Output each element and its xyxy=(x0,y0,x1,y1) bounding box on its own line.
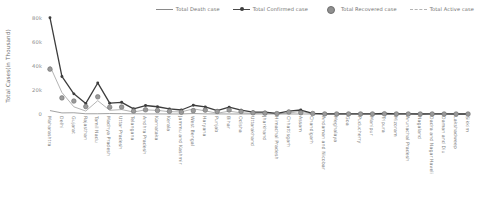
data-point-marker[interactable] xyxy=(143,108,148,113)
data-point-marker[interactable] xyxy=(239,109,244,114)
x-axis-tick-label: Mizoram xyxy=(393,116,398,137)
x-axis-tick-label: Dadra and Nagar Haveli xyxy=(429,116,434,174)
data-point-marker[interactable] xyxy=(60,96,65,101)
line-swatch-icon xyxy=(156,6,173,13)
x-axis-tick-label: Punjab xyxy=(214,116,219,132)
x-axis-tick-label: Goa xyxy=(345,116,350,126)
data-point-marker[interactable] xyxy=(107,105,112,110)
data-point-marker[interactable] xyxy=(263,111,268,116)
x-axis-tick-label: Uttar Pradesh xyxy=(118,116,123,149)
x-axis-tick-label: Sikkim xyxy=(465,116,470,132)
x-axis-tick-label: Tripura xyxy=(381,116,386,133)
y-axis-ticks: 020k40k60k80k xyxy=(18,0,42,203)
x-axis-tick-label: Telangana xyxy=(130,116,135,141)
data-point-marker[interactable] xyxy=(84,104,89,109)
x-axis-tick-label: Nagaland xyxy=(417,116,422,139)
x-axis-tick-label: Daman and Diu xyxy=(441,116,446,154)
data-point-marker[interactable] xyxy=(215,109,220,114)
x-axis-tick-label: Maharashtra xyxy=(47,116,52,147)
data-point-marker[interactable] xyxy=(155,108,160,113)
x-axis-tick-label: Karnataka xyxy=(154,116,159,141)
x-axis-tick-label: Odisha xyxy=(238,116,243,133)
x-axis-tick-label: Chhattisgarh xyxy=(286,116,291,147)
chart-legend: Total Death case Total Confirmed case To… xyxy=(0,2,482,16)
x-axis-tick-label: Bihar xyxy=(226,116,231,129)
data-point-marker[interactable] xyxy=(60,75,63,78)
data-point-marker[interactable] xyxy=(72,99,77,104)
x-axis-tick-label: Jharkhand xyxy=(262,116,267,140)
covid-cases-line-chart: Total Death case Total Confirmed case To… xyxy=(0,0,482,203)
circle-swatch-icon xyxy=(321,6,338,13)
data-point-marker[interactable] xyxy=(95,95,100,100)
data-point-marker[interactable] xyxy=(203,108,208,113)
legend-label: Total Active case xyxy=(430,6,474,12)
x-axis-tick-label: Chandigarh xyxy=(309,116,314,144)
data-point-marker[interactable] xyxy=(227,108,232,113)
x-axis-tick-label: West Bengal xyxy=(190,116,195,146)
legend-item-total-death-case[interactable]: Total Death case xyxy=(156,6,220,13)
x-axis-tick-label: Andaman and Nicobar xyxy=(321,116,326,170)
y-axis-tick-label: 20k xyxy=(20,87,42,93)
x-axis-tick-label: Assam xyxy=(298,116,303,132)
plot-area xyxy=(44,18,474,114)
data-point-marker[interactable] xyxy=(131,109,136,114)
data-point-marker[interactable] xyxy=(144,104,147,107)
data-point-marker[interactable] xyxy=(72,92,75,95)
x-axis-tick-label: Uttarakhand xyxy=(250,116,255,146)
x-axis-tick-label: Delhi xyxy=(59,116,64,128)
dashed-line-swatch-icon xyxy=(410,6,427,13)
x-axis-tick-label: Puducherry xyxy=(357,116,362,143)
legend-label: Total Confirmed case xyxy=(253,6,308,12)
data-point-marker[interactable] xyxy=(49,16,52,19)
x-axis-tick-label: Jammu and Kashmir xyxy=(178,116,183,165)
x-axis-labels: MaharashtraDelhiGujaratRajasthanTamil Na… xyxy=(44,116,474,202)
legend-label: Total Death case xyxy=(176,6,220,12)
x-axis-tick-label: Himachal Pradesh xyxy=(274,116,279,160)
data-point-marker[interactable] xyxy=(299,110,304,115)
legend-label: Total Recovered case xyxy=(341,6,397,12)
series-line xyxy=(50,18,468,114)
x-axis-tick-label: Meghalaya xyxy=(333,116,338,142)
data-point-marker[interactable] xyxy=(120,101,123,104)
x-axis-tick-label: Lakshadweep xyxy=(453,116,458,149)
x-axis-tick-label: Kerala xyxy=(166,116,171,131)
y-axis-tick-label: 80k xyxy=(20,15,42,21)
x-axis-tick-label: Andhra Pradesh xyxy=(142,116,147,154)
data-point-marker[interactable] xyxy=(156,105,159,108)
data-point-marker[interactable] xyxy=(192,104,195,107)
data-point-marker[interactable] xyxy=(191,108,196,113)
data-point-marker[interactable] xyxy=(167,109,172,114)
data-point-marker[interactable] xyxy=(96,82,99,85)
x-axis-tick-label: Rajasthan xyxy=(83,116,88,140)
y-axis-title-text: Total Cases(in Thousand) xyxy=(5,18,11,114)
y-axis-tick-label: 60k xyxy=(20,39,42,45)
y-axis-tick-label: 0 xyxy=(20,111,42,117)
data-point-marker[interactable] xyxy=(108,102,111,105)
legend-item-total-confirmed-case[interactable]: Total Confirmed case xyxy=(233,6,308,13)
data-point-marker[interactable] xyxy=(179,110,184,115)
series-line xyxy=(50,66,468,114)
x-axis-tick-label: Haryana xyxy=(202,116,207,136)
y-axis-tick-label: 40k xyxy=(20,63,42,69)
data-point-marker[interactable] xyxy=(287,110,292,115)
x-axis-tick-label: Gujarat xyxy=(71,116,76,134)
data-point-marker[interactable] xyxy=(119,105,124,110)
x-axis-tick-label: Manipur xyxy=(369,116,374,136)
legend-item-total-active-case[interactable]: Total Active case xyxy=(410,6,474,13)
x-axis-tick-label: Madhya Pradesh xyxy=(106,116,111,156)
data-point-marker[interactable] xyxy=(48,67,53,72)
data-point-marker[interactable] xyxy=(251,110,256,115)
x-axis-tick-label: Arunachal Pradesh xyxy=(405,116,410,161)
plot-svg xyxy=(44,18,474,114)
line-marker-swatch-icon xyxy=(233,6,250,13)
y-axis-title: Total Cases(in Thousand) xyxy=(0,18,12,118)
x-axis-tick-label: Tamil Nadu xyxy=(94,116,99,143)
legend-item-total-recovered-case[interactable]: Total Recovered case xyxy=(321,6,397,13)
